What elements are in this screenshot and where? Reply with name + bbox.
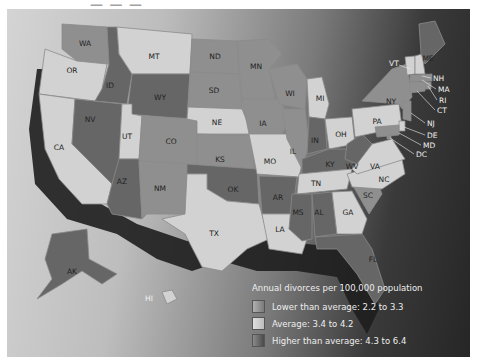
svg-text:TX: TX <box>208 229 219 238</box>
svg-text:AZ: AZ <box>117 177 127 186</box>
legend-swatch-high <box>252 334 265 347</box>
svg-text:SC: SC <box>363 191 373 200</box>
svg-text:AR: AR <box>273 193 283 202</box>
legend-swatch-low <box>252 300 265 313</box>
svg-text:OH: OH <box>335 130 347 139</box>
svg-text:AL: AL <box>314 208 324 217</box>
svg-text:IA: IA <box>259 119 267 128</box>
svg-text:WV: WV <box>346 162 359 171</box>
svg-text:VA: VA <box>370 162 381 171</box>
svg-text:MI: MI <box>316 94 325 103</box>
svg-text:TN: TN <box>310 179 321 188</box>
svg-text:CO: CO <box>165 137 176 146</box>
state-AK <box>37 229 117 299</box>
state-DE <box>399 121 405 131</box>
svg-text:CA: CA <box>54 143 65 152</box>
legend-label-average: Average: 3.4 to 4.2 <box>272 319 353 329</box>
svg-text:MS: MS <box>292 208 303 217</box>
legend-title: Annual divorces per 100,000 population <box>252 283 462 293</box>
svg-text:GA: GA <box>343 208 355 217</box>
svg-text:ID: ID <box>106 81 114 90</box>
svg-text:UT: UT <box>122 132 132 141</box>
svg-text:NC: NC <box>379 175 390 184</box>
legend-label-high: Higher than average: 4.3 to 6.4 <box>272 336 406 346</box>
svg-text:WI: WI <box>285 89 295 98</box>
legend-swatch-average <box>252 317 265 330</box>
svg-text:MD: MD <box>423 141 435 150</box>
svg-text:OR: OR <box>66 66 77 75</box>
state-MA <box>410 74 432 82</box>
state-MT <box>117 27 192 74</box>
svg-text:KY: KY <box>325 160 335 169</box>
svg-text:HI: HI <box>145 294 153 303</box>
svg-text:CT: CT <box>437 106 447 115</box>
legend: Annual divorces per 100,000 population L… <box>252 283 462 350</box>
svg-text:PA: PA <box>372 117 382 126</box>
svg-text:MT: MT <box>148 52 159 61</box>
svg-text:MA: MA <box>438 85 450 94</box>
legend-item-low: Lower than average: 2.2 to 3.3 <box>252 299 462 314</box>
svg-text:AK: AK <box>67 267 78 276</box>
svg-text:NM: NM <box>154 184 166 193</box>
svg-text:DC: DC <box>416 150 427 159</box>
svg-text:SD: SD <box>209 86 220 95</box>
svg-text:VT: VT <box>389 59 399 68</box>
svg-text:NE: NE <box>212 118 223 127</box>
legend-item-average: Average: 3.4 to 4.2 <box>252 316 462 331</box>
svg-text:OK: OK <box>228 185 240 194</box>
svg-text:NY: NY <box>386 97 397 106</box>
svg-text:DE: DE <box>427 131 438 140</box>
cropped-title: — — — <box>90 0 390 8</box>
svg-text:MO: MO <box>264 157 276 166</box>
svg-text:ND: ND <box>209 52 221 61</box>
svg-text:FL: FL <box>369 255 378 264</box>
state-HI <box>162 290 177 304</box>
svg-text:NJ: NJ <box>427 119 435 128</box>
svg-text:ME: ME <box>422 54 433 63</box>
svg-text:MN: MN <box>250 62 262 71</box>
svg-text:WY: WY <box>154 93 166 102</box>
legend-item-high: Higher than average: 4.3 to 6.4 <box>252 333 462 348</box>
svg-text:IL: IL <box>290 147 297 156</box>
legend-label-low: Lower than average: 2.2 to 3.3 <box>272 302 404 312</box>
svg-text:LA: LA <box>275 225 285 234</box>
state-VT <box>405 56 415 75</box>
svg-text:KS: KS <box>215 155 225 164</box>
state-NJ <box>403 101 411 121</box>
svg-text:WA: WA <box>79 39 92 48</box>
state-KS <box>197 134 254 169</box>
svg-text:NH: NH <box>433 74 444 83</box>
svg-text:NV: NV <box>85 115 97 124</box>
svg-text:IN: IN <box>311 136 319 145</box>
svg-text:RI: RI <box>439 96 446 105</box>
